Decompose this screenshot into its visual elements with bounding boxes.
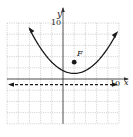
points-layer: [72, 60, 77, 65]
focus-label: F: [76, 49, 83, 58]
x-tick-label-10: 10: [110, 79, 120, 88]
parabola-curve: [29, 29, 115, 74]
x-axis-label: x: [124, 78, 129, 87]
y-tick-label-10: 10: [51, 18, 61, 27]
parabola-chart: y 10 10 x F: [0, 0, 133, 137]
axes: [7, 7, 129, 124]
directrix-left-arrow-icon: [8, 82, 14, 86]
focus-point: [72, 60, 77, 65]
parabola-right-arrow-icon: [112, 31, 119, 38]
